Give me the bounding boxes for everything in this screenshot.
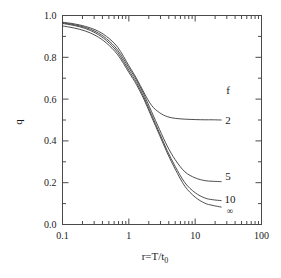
data-curve-5 — [63, 23, 222, 182]
y-tick-label: 0.8 — [44, 52, 57, 63]
curve-label-5: 5 — [225, 170, 231, 182]
data-curves — [63, 22, 222, 207]
x-axis-title-group: r=T/t0 — [142, 250, 169, 265]
chart-figure: 0.00.20.40.60.81.0 0.1110100 f 2 5 10 ∞ … — [0, 0, 281, 278]
data-curve-inf — [63, 26, 222, 207]
curve-annotations: f 2 5 10 ∞ — [225, 84, 237, 216]
y-tick-label: 0.4 — [44, 135, 57, 146]
y-tick-label: 1.0 — [44, 10, 57, 21]
x-axis-title-subscript: 0 — [164, 256, 168, 265]
x-tick-label: 100 — [254, 230, 269, 241]
x-tick-label: 1 — [126, 230, 131, 241]
x-axis-title-main: r=T/t — [142, 250, 165, 262]
y-tick-label: 0.2 — [44, 177, 57, 188]
x-axis-title: r=T/t0 — [142, 250, 169, 265]
data-curve-2 — [63, 22, 222, 120]
data-curve-10 — [63, 23, 222, 200]
curve-label-2: 2 — [225, 114, 231, 126]
y-tick-label: 0.0 — [44, 219, 57, 230]
y-tick-label: 0.6 — [44, 94, 57, 105]
legend-title-f: f — [226, 84, 230, 96]
y-axis-tick-labels: 0.00.20.40.60.81.0 — [44, 10, 57, 230]
x-tick-label: 10 — [190, 230, 200, 241]
curve-label-10: 10 — [225, 193, 237, 205]
x-axis-tick-labels: 0.1110100 — [56, 230, 269, 241]
y-axis-title: q — [12, 119, 24, 125]
x-tick-label: 0.1 — [56, 230, 69, 241]
y-axis-title-group: q — [12, 119, 24, 125]
chart-plot-area: 0.00.20.40.60.81.0 0.1110100 f 2 5 10 ∞ … — [0, 0, 281, 278]
curve-label-infinity: ∞ — [227, 206, 233, 216]
